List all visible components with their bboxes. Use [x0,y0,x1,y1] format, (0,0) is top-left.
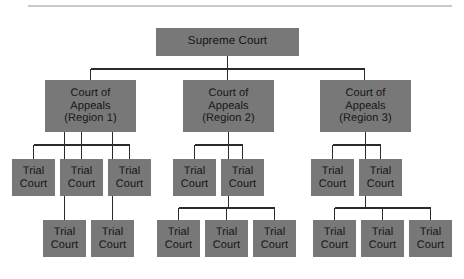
node-label-line: Trial [71,165,92,178]
node-label-line: Court [99,239,126,252]
node-label-line: Trial [324,226,345,239]
node-label-line: Court [20,178,47,191]
node-coa2: Court ofAppeals(Region 2) [183,80,274,132]
node-label-line: Court of [346,87,386,100]
node-label-line: Trial [168,226,189,239]
node-label-line: Court of [209,87,249,100]
node-label-line: Trial [264,226,285,239]
node-r2b2: TrialCourt [205,220,248,257]
node-label-line: Trial [23,165,44,178]
node-label-line: Trial [102,226,123,239]
node-label-line: Appeals [70,100,110,113]
node-label-line: Trial [420,226,441,239]
node-r1b1: TrialCourt [43,220,86,257]
node-label-line: Court [165,239,192,252]
node-label-line: Court [181,178,208,191]
node-r2t1: TrialCourt [173,159,216,196]
node-r2t2: TrialCourt [221,159,264,196]
node-r2b3: TrialCourt [253,220,296,257]
node-r1t3: TrialCourt [108,159,151,196]
node-label-line: Appeals [208,100,248,113]
node-label-line: (Region 1) [64,112,116,125]
node-label-line: Court [213,239,240,252]
node-supreme: Supreme Court [156,28,299,56]
node-label-line: Trial [370,165,391,178]
node-label-line: Court [229,178,256,191]
node-r3b2: TrialCourt [361,220,404,257]
node-r3b3: TrialCourt [409,220,452,257]
node-r1b2: TrialCourt [91,220,134,257]
node-label-line: Court [369,239,396,252]
court-hierarchy-diagram: Supreme CourtCourt ofAppeals(Region 1)Co… [0,0,464,279]
node-label-line: Trial [119,165,140,178]
node-label-line: Trial [322,165,343,178]
node-r3t1: TrialCourt [311,159,354,196]
node-coa1: Court ofAppeals(Region 1) [45,80,136,132]
node-label-line: (Region 2) [202,112,254,125]
node-label-line: Court [261,239,288,252]
node-label-line: Trial [184,165,205,178]
node-label-line: Court [321,239,348,252]
node-label-line: Supreme Court [188,35,267,49]
node-label-line: Court [417,239,444,252]
node-label-line: Court [68,178,95,191]
node-label-line: Court of [71,87,111,100]
node-r3b1: TrialCourt [313,220,356,257]
node-r1t2: TrialCourt [60,159,103,196]
node-label-line: Trial [216,226,237,239]
node-label-line: Trial [54,226,75,239]
node-label-line: Appeals [345,100,385,113]
node-r3t2: TrialCourt [359,159,402,196]
node-label-line: Court [51,239,78,252]
node-label-line: Trial [372,226,393,239]
node-label-line: Trial [232,165,253,178]
node-r1t1: TrialCourt [12,159,55,196]
node-label-line: Court [367,178,394,191]
node-label-line: Court [116,178,143,191]
node-coa3: Court ofAppeals(Region 3) [320,80,411,132]
node-r2b1: TrialCourt [157,220,200,257]
node-label-line: (Region 3) [339,112,391,125]
node-label-line: Court [319,178,346,191]
